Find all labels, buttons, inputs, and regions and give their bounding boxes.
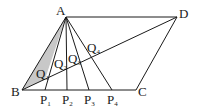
side-cd [136,17,177,90]
label-q3: Q3 [68,51,81,67]
label-c: C [138,84,147,99]
label-p3: P3 [84,92,95,108]
label-p2: P2 [62,92,73,108]
label-p4: P4 [107,92,118,108]
segment-ap2 [66,17,67,90]
label-p1: P1 [40,92,51,108]
label-q2: Q2 [54,56,67,72]
label-a: A [56,3,66,18]
label-q4: Q4 [87,40,100,56]
parallelogram-diagram: A D B C P1 P2 P3 P4 Q1 Q2 Q3 Q4 [0,0,203,111]
diagram-svg: A D B C P1 P2 P3 P4 Q1 Q2 Q3 Q4 [0,0,203,111]
label-d: D [179,6,188,21]
label-b: B [11,84,20,99]
